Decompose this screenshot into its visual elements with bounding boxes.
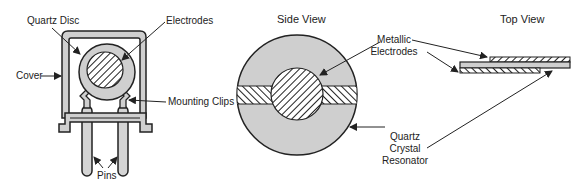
quartz-crystal-label-line2: Crystal	[389, 143, 420, 154]
top-electrode	[490, 57, 570, 62]
metallic-electrodes-label-line1: Metallic	[377, 34, 411, 45]
disc-electrode	[87, 52, 123, 88]
side-view-title: Side View	[277, 13, 326, 25]
side-view-panel: Side View Metallic Electrodes Quartz Cry…	[237, 13, 552, 166]
mounting-clips-label: Mounting Clips	[168, 96, 234, 107]
quartz-crystal-label-line1: Quartz	[390, 131, 420, 142]
quartz-crystal-diagram: Quartz Disc Electrodes Cover Mounting Cl…	[0, 0, 586, 183]
quartz-crystal-label-line3: Resonator	[382, 155, 429, 166]
cover-label: Cover	[16, 70, 43, 81]
electrodes-label: Electrodes	[166, 15, 213, 26]
top-view-panel: Top View	[460, 13, 570, 73]
package-panel: Quartz Disc Electrodes Cover Mounting Cl…	[16, 15, 234, 181]
metallic-electrodes-label-line2: Electrodes	[370, 46, 417, 57]
pins-label: Pins	[97, 170, 116, 181]
bottom-electrode	[460, 68, 540, 73]
base	[59, 113, 152, 132]
quartz-bar	[460, 62, 570, 68]
top-view-title: Top View	[500, 13, 544, 25]
quartz-disc-label: Quartz Disc	[27, 15, 79, 26]
metallic-electrode	[271, 68, 323, 120]
